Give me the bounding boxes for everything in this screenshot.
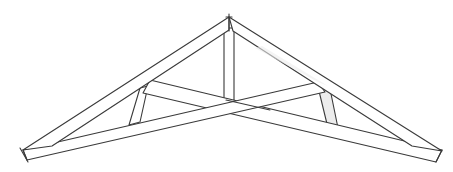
king-post <box>224 28 234 104</box>
scissor-truss-diagram <box>0 0 453 172</box>
